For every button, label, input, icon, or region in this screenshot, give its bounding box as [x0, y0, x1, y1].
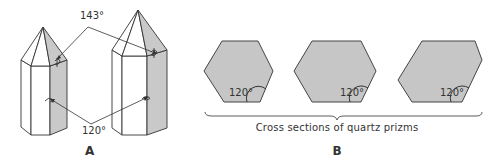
angle-label: 120° [440, 87, 464, 98]
crystal-right [112, 10, 167, 135]
curly-brace [205, 112, 482, 120]
prism-face-shaded [147, 50, 167, 135]
prism-face-left [21, 60, 31, 135]
prism-face-shaded [50, 60, 67, 135]
hexagon-3: 120° [398, 41, 482, 102]
quartz-crystal-figure: 143° 120° A 120° 120° 120° [0, 0, 499, 164]
panel-label-b: B [332, 144, 341, 158]
angle-label-143: 143° [80, 10, 104, 21]
caption: Cross sections of quartz prizms [256, 122, 419, 133]
hexagon-2: 120° [294, 41, 376, 102]
panel-label-a: A [85, 144, 95, 158]
prism-face-left [112, 50, 122, 135]
prism-face-front [31, 66, 50, 135]
angle-label: 120° [229, 87, 253, 98]
hexagon-1: 120° [204, 41, 273, 102]
prism-face-front [122, 56, 147, 135]
angle-label: 120° [340, 87, 364, 98]
crystal-left [21, 27, 67, 135]
panel-a: 143° 120° A [21, 10, 167, 158]
angle-label-120: 120° [82, 125, 106, 136]
panel-b: 120° 120° 120° Cross sections of quartz … [204, 41, 482, 158]
